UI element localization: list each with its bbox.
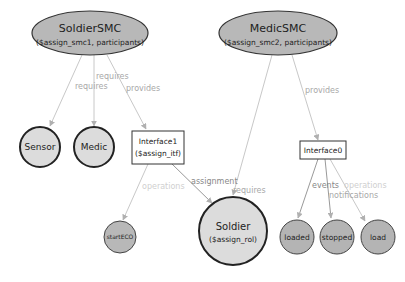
edge-label-smc1-medic: requires xyxy=(96,72,129,81)
diagram-canvas: requires requires provides requires prov… xyxy=(0,0,405,282)
node-medic-smc[interactable]: MedicSMC ($assign_smc2, participants) xyxy=(219,11,337,55)
interface1-title: Interface1 xyxy=(139,137,178,146)
medic-label: Medic xyxy=(81,142,108,152)
node-load[interactable]: load xyxy=(361,220,395,254)
interface1-subtitle: ($assign_itf) xyxy=(135,149,181,158)
node-soldier[interactable]: Soldier ($assign_rol) xyxy=(199,197,267,265)
node-stopped[interactable]: stopped xyxy=(320,220,354,254)
edge-label-interface0-loaded: events xyxy=(312,181,339,190)
node-interface1[interactable]: Interface1 ($assign_itf) xyxy=(132,131,184,164)
soldier-subtitle: ($assign_rol) xyxy=(209,235,257,244)
edge-smc2-soldier[interactable] xyxy=(233,55,272,195)
edge-label-smc1-interface1: provides xyxy=(126,84,160,93)
sensor-label: Sensor xyxy=(25,142,56,152)
interface0-title: Interface0 xyxy=(304,146,343,155)
edge-label-interface1-starteco: operations xyxy=(142,182,185,191)
edge-label-interface0-load: operations xyxy=(344,181,387,190)
node-interface0[interactable]: Interface0 xyxy=(300,141,346,159)
edge-interface1-starteco[interactable] xyxy=(123,164,148,220)
edge-label-interface1-soldier: assignment xyxy=(191,177,238,186)
medic-smc-subtitle: ($assign_smc2, participants) xyxy=(224,38,332,47)
soldier-title: Soldier xyxy=(216,221,252,232)
stopped-label: stopped xyxy=(322,233,353,242)
node-loaded[interactable]: loaded xyxy=(280,220,314,254)
node-medic[interactable]: Medic xyxy=(74,127,114,167)
node-sensor[interactable]: Sensor xyxy=(20,127,60,167)
edge-label-smc1-sensor: requires xyxy=(75,82,108,91)
edge-label-smc2-interface0: provides xyxy=(305,86,339,95)
edge-labels: requires requires provides requires prov… xyxy=(75,72,387,200)
soldier-smc-subtitle: ($assign_smc1, participants) xyxy=(36,38,144,47)
medic-smc-title: MedicSMC xyxy=(250,22,307,35)
edge-smc2-interface0[interactable] xyxy=(292,55,318,140)
edge-label-interface0-stopped: notifications xyxy=(329,191,378,200)
load-label: load xyxy=(370,233,386,242)
start-eco-label: startECO xyxy=(107,233,134,240)
edge-label-smc2-soldier: requires xyxy=(233,186,266,195)
loaded-label: loaded xyxy=(284,233,310,242)
node-soldier-smc[interactable]: SoldierSMC ($assign_smc1, participants) xyxy=(32,11,148,55)
soldier-smc-title: SoldierSMC xyxy=(59,22,122,35)
edge-interface0-load[interactable] xyxy=(330,159,365,221)
node-start-eco[interactable]: startECO xyxy=(104,221,136,253)
